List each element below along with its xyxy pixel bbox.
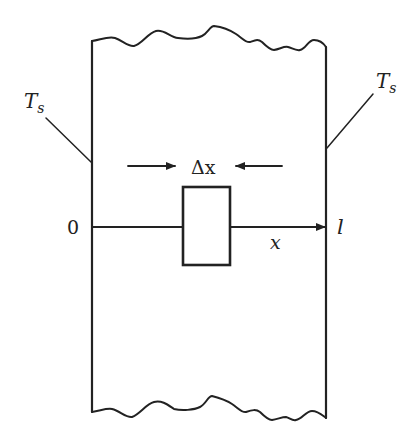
- left-surface-temp-label: Ts: [24, 89, 45, 116]
- right-surface-temp-label: Ts: [376, 69, 397, 96]
- x-axis-label: x: [270, 231, 281, 253]
- origin-label: 0: [67, 216, 79, 238]
- control-volume-box: [183, 187, 230, 265]
- delta-x-label: Δx: [191, 156, 216, 178]
- slab-diagram: Ts Ts Δx 0 l x: [0, 0, 413, 441]
- diagram-canvas: Ts Ts Δx 0 l x: [0, 0, 413, 441]
- slab-top-break-line: [92, 26, 326, 50]
- right-temp-leader-line: [327, 94, 373, 148]
- left-temp-leader-line: [46, 118, 91, 162]
- thickness-label: l: [337, 215, 344, 239]
- slab-bottom-break-line: [92, 396, 326, 420]
